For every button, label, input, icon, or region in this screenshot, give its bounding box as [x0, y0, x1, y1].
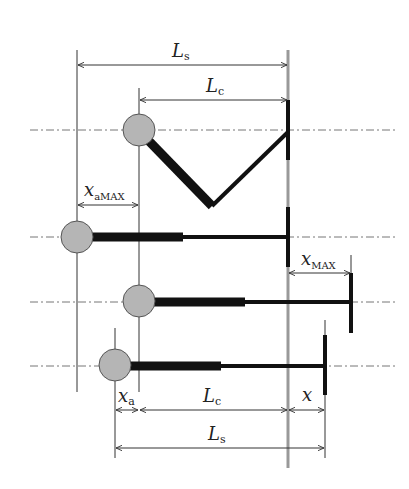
label-xaMAX: xaMAX: [84, 179, 126, 202]
label-x-bottom: x: [302, 384, 312, 405]
linkage-diagram: Ls Lc xaMAX xMAX xa Lc x Ls: [0, 0, 409, 489]
label-Ls-bottom: Ls: [207, 423, 226, 446]
label-Lc-top: Lc: [205, 75, 224, 98]
row-extended-max-offset: [61, 207, 288, 267]
label-Lc-bottom: Lc: [202, 385, 221, 408]
ball-row-3: [123, 285, 155, 317]
label-xMAX: xMAX: [301, 248, 337, 271]
row-folded-linkage: [123, 100, 288, 206]
ball-row-1: [123, 114, 155, 146]
ball-row-2: [61, 221, 93, 253]
thick-link-row-1: [145, 137, 212, 206]
label-xa-bottom: xa: [118, 385, 135, 408]
ball-row-4: [99, 349, 131, 381]
label-Ls-top: Ls: [171, 40, 190, 63]
thin-link-row-1: [212, 132, 288, 206]
row-extended-max-stroke: [123, 273, 351, 333]
